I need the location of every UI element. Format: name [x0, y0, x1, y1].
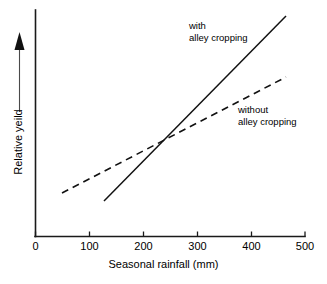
with-alley-cropping-label-line1: with [189, 20, 206, 32]
x-tick-label-100: 100 [70, 241, 110, 252]
x-tick-label-500: 500 [285, 241, 325, 252]
without-alley-cropping-label-line2: alley cropping [238, 116, 297, 128]
x-tick-label-0: 0 [16, 241, 56, 252]
without-alley-cropping-label-line1: without [238, 104, 268, 116]
x-tick-label-400: 400 [232, 241, 272, 252]
x-axis-title: Seasonal rainfall (mm) [0, 258, 327, 270]
x-tick-label-300: 300 [178, 241, 218, 252]
y-axis-title: Relative yeild [12, 82, 24, 202]
y-axis-arrow-icon [15, 32, 25, 50]
chart-figure: 0 100 200 300 400 500 Seasonal rainfall … [0, 0, 327, 284]
series-line-without-alley-cropping [62, 77, 286, 193]
with-alley-cropping-label-line2: alley cropping [189, 32, 248, 44]
x-tick-label-200: 200 [124, 241, 164, 252]
